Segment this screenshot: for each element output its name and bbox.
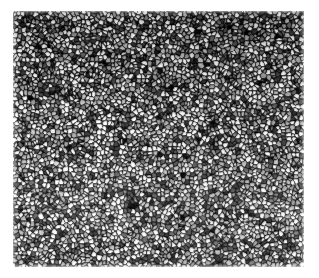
figure-root — [0, 0, 319, 278]
micrograph-image — [13, 11, 304, 267]
micrograph-plate — [13, 11, 304, 267]
